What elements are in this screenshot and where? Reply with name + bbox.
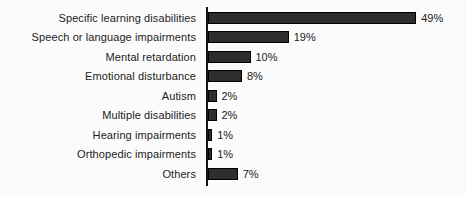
- category-label: Orthopedic impairments: [0, 148, 203, 160]
- bar-row: Speech or language impairments 19%: [0, 28, 466, 48]
- category-label: Hearing impairments: [0, 129, 203, 141]
- bar: [208, 148, 212, 160]
- bar: [208, 51, 251, 63]
- category-label: Mental retardation: [0, 51, 203, 63]
- bar: [208, 90, 217, 102]
- bar-row: Hearing impairments 1%: [0, 125, 466, 145]
- bar: [208, 70, 242, 82]
- value-label: 2%: [222, 109, 238, 121]
- bar: [208, 109, 217, 121]
- category-label: Specific learning disabilities: [0, 12, 203, 24]
- category-label: Multiple disabilities: [0, 109, 203, 121]
- value-label: 8%: [247, 70, 263, 82]
- bar-row: Specific learning disabilities 49%: [0, 8, 466, 28]
- value-label: 2%: [222, 90, 238, 102]
- bar-rows: Specific learning disabilities 49% Speec…: [0, 8, 466, 184]
- value-label: 7%: [243, 168, 259, 180]
- bar: [208, 31, 289, 43]
- bar-row: Emotional disturbance 8%: [0, 67, 466, 87]
- category-label: Autism: [0, 90, 203, 102]
- bar: [208, 168, 238, 180]
- bar-row: Others 7%: [0, 164, 466, 184]
- value-label: 19%: [294, 31, 316, 43]
- bar-row: Multiple disabilities 2%: [0, 106, 466, 126]
- category-label: Emotional disturbance: [0, 70, 203, 82]
- bar-row: Orthopedic impairments 1%: [0, 145, 466, 165]
- value-label: 1%: [217, 129, 233, 141]
- disability-categories-bar-chart: Specific learning disabilities 49% Speec…: [0, 0, 466, 197]
- category-label: Speech or language impairments: [0, 31, 203, 43]
- value-label: 49%: [421, 12, 443, 24]
- value-label: 10%: [256, 51, 278, 63]
- category-label: Others: [0, 168, 203, 180]
- bar-row: Mental retardation 10%: [0, 47, 466, 67]
- bar: [208, 129, 212, 141]
- value-label: 1%: [217, 148, 233, 160]
- bar-row: Autism 2%: [0, 86, 466, 106]
- bar: [208, 12, 416, 24]
